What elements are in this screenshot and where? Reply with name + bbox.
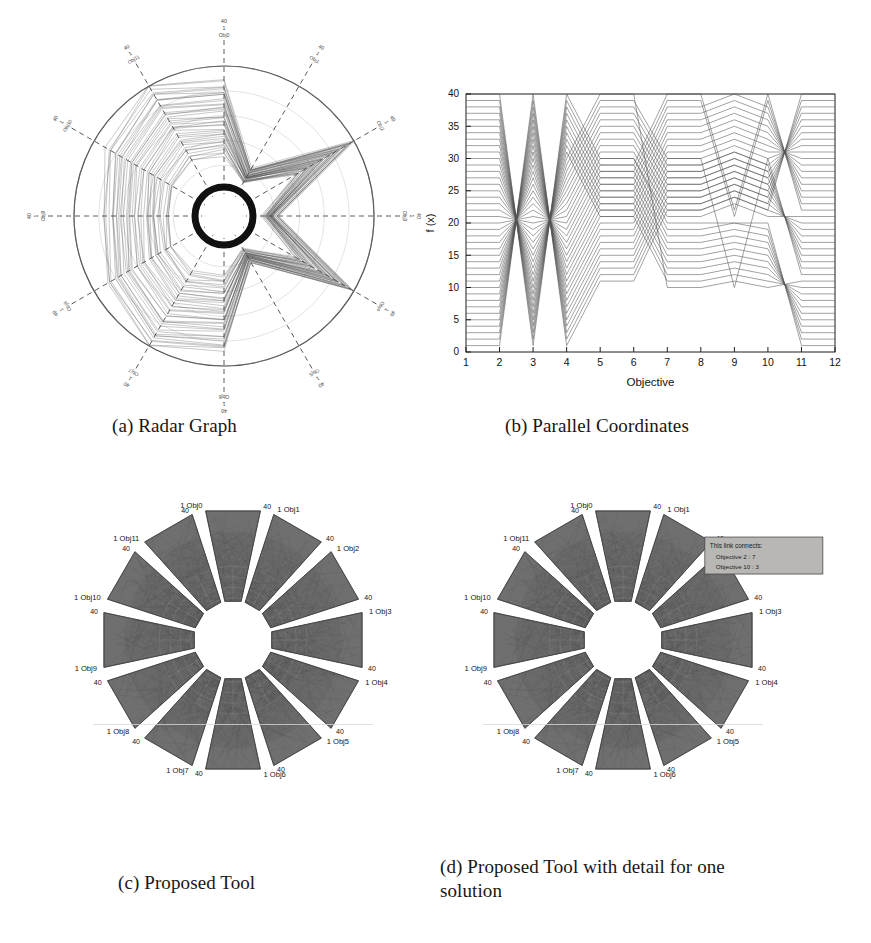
tool-scale-max-label: 40 [132,738,140,745]
tool-solution-link [193,634,276,661]
radar-graph-plot: 401Obj0401Obj1401Obj2401Obj3401Obj4401Ob… [26,16,426,406]
tool-scale-max-label: 40 [758,665,766,672]
radar-axis-min-label: 1 [58,119,65,125]
tool-solution-link [576,650,673,653]
radar-axis-name: Obj0 [219,32,230,38]
parallel-y-tick-label: 25 [448,185,460,196]
tool-scale-max-label: 40 [512,545,520,552]
tool-link-texture [105,514,364,770]
parallel-y-tick-label: 30 [448,153,460,164]
tool-scale-max-label: 40 [484,679,492,686]
tool-solution-link [218,576,220,594]
solution-detail-tooltip[interactable]: This link connects:Objective 2 : 7Object… [705,537,823,574]
tool-scale-max-label: 40 [522,738,530,745]
parallel-y-tick-label: 15 [448,250,460,261]
radar-axis-label: 401Obj2 [376,112,399,131]
radar-axis-min-label: 1 [222,401,225,407]
parallel-x-tick-label: 10 [762,356,774,368]
tool-centre-ring [570,587,676,693]
tool-centre-ring [201,608,264,671]
radar-axis-min-label: 1 [223,25,226,31]
subfigure-proposed-tool: 1 Obj0401 Obj1401 Obj2401 Obj3401 Obj440… [75,462,395,822]
radar-axis-name: Obj3 [402,211,408,222]
parallel-y-tick-label: 20 [448,217,460,228]
tool-scale-max-label: 40 [754,594,762,601]
caption-proposed-tool: (c) Proposed Tool [118,871,255,895]
tool-scale-max-label: 40 [653,503,661,510]
radar-axis-label: 401Obj10 [49,111,73,133]
radar-axis-name: Obj9 [40,211,46,222]
radar-axis-label: 401Obj7 [120,367,139,390]
radar-axis-label: 401Obj6 [219,394,230,414]
parallel-y-tick-label: 35 [448,121,460,132]
tool-solution-link [589,612,616,681]
tooltip-row-2: Objective 10 : 3 [716,563,760,570]
tool-scale-max-label: 40 [181,507,189,514]
tool-solution-link [191,620,270,627]
parallel-x-tick-label: 12 [829,356,841,368]
tool-objective-label: 1 Obj2 [337,544,359,553]
parallel-x-tick-label: 11 [796,356,807,368]
tool-scale-max-label: 40 [368,665,376,672]
radar-axis-name: Obj1 [308,54,320,65]
radar-axis-line [68,225,208,306]
tool-objective-label: 1 Obj10 [464,593,491,602]
parallel-series-group [466,94,835,346]
tool-objective-label: 1 Obj4 [365,678,387,687]
parallel-x-tick-label: 5 [597,356,603,368]
tool-objective-label: 1 Obj6 [653,770,675,779]
radar-axis-name: Obj4 [375,300,386,312]
tool-solution-link [526,620,676,624]
radar-axis-label: 401Obj5 [308,368,327,391]
tool-centre-ring [602,619,644,661]
radar-axis-name: Obj10 [61,118,73,133]
tool-centre-ring [212,619,254,661]
radar-axis-min-label: 1 [383,307,390,313]
tool-objective-label: 1 Obj10 [74,593,101,602]
tool-objective-label: 1 Obj3 [759,607,781,616]
tool-centre-ring [222,629,243,650]
tool-scale-max-label: 40 [94,679,102,686]
proposed-tool-plot: 1 Obj0401 Obj1401 Obj2401 Obj3401 Obj440… [75,462,395,822]
parallel-y-tick-label: 10 [448,282,460,293]
caption-parallel-coordinates: (b) Parallel Coordinates [505,414,689,438]
parallel-y-tick-label: 5 [453,314,459,325]
tool-scale-max-label: 40 [364,594,372,601]
radar-axis-label: 401Obj8 [50,300,73,319]
parallel-x-tick-label: 9 [731,356,737,368]
radar-axis-name: Obj7 [127,367,139,378]
tool-centre-ring [191,598,275,682]
tool-scale-max-label: 40 [336,728,344,735]
tool-objective-label: 1 Obj11 [503,534,529,543]
tool-objective-label: 1 Obj1 [277,505,299,514]
tool-scale-max-label: 40 [90,608,98,615]
radar-axis-name: Obj6 [219,394,230,400]
radar-axis-min-label: 1 [33,214,39,217]
parallel-x-tick-label: 6 [631,356,637,368]
tool-solution-link [149,558,157,568]
tool-objective-label: 1 Obj11 [113,534,139,543]
radar-axis-min-label: 1 [315,375,321,382]
tool-scale-max-label: 40 [571,507,579,514]
parallel-x-tick-label: 2 [497,356,503,368]
parallel-y-tick-label: 0 [453,346,459,357]
proposed-tool-detail-plot: 1 Obj0401 Obj1401 Obj2401 Obj3401 Obj440… [445,462,845,822]
tool-solution-link [581,620,660,627]
caption-radar-graph: (a) Radar Graph [112,414,237,438]
parallel-x-tick-label: 3 [530,356,536,368]
tool-solution-link [186,650,283,653]
tool-centre-ring [612,629,633,650]
subfigure-radar-graph: 401Obj0401Obj1401Obj2401Obj3401Obj4401Ob… [26,16,426,406]
tool-solution-link [539,558,547,568]
tooltip-title: This link connects: [710,542,763,549]
tool-objective-label: 1 Obj4 [755,678,777,687]
tool-solution-link [608,576,610,594]
tool-objective-label: 1 Obj7 [556,766,578,775]
radar-axis-label: 401Obj3 [402,211,422,222]
tool-objective-label: 1 Obj9 [75,664,97,673]
tool-objective-label: 1 Obj8 [497,727,519,736]
tool-solution-link [583,634,666,661]
radar-axis-max-label: 40 [221,18,227,24]
radar-axis-label: 401Obj11 [119,41,140,65]
tool-objective-label: 1 Obj1 [667,505,689,514]
